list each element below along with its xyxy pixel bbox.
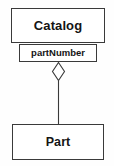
uml-class-catalog-label: Catalog xyxy=(34,19,82,32)
uml-class-part-label: Part xyxy=(46,136,71,149)
uml-class-part[interactable]: Part xyxy=(12,124,104,160)
uml-class-catalog[interactable]: Catalog xyxy=(11,8,105,43)
association-rolename-label: partNumber xyxy=(31,48,85,58)
association-rolename-box[interactable]: partNumber xyxy=(19,44,97,62)
aggregation-hollow-diamond-icon xyxy=(53,63,65,81)
uml-diagram-canvas: Catalog partNumber Part xyxy=(0,0,114,166)
